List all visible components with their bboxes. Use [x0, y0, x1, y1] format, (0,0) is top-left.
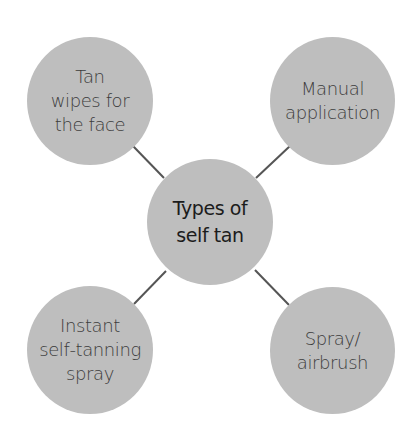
node-label: Spray/ airbrush [297, 327, 368, 375]
node-manual-application: Manual application [270, 37, 395, 165]
connector-top-left [133, 146, 164, 178]
connector-bottom-left [134, 271, 166, 304]
node-spray-airbrush: Spray/ airbrush [270, 287, 395, 414]
node-label: Tan wipes for the face [51, 65, 129, 137]
node-label: Manual application [285, 77, 380, 125]
center-label: Types of self tan [173, 195, 248, 249]
connector-top-right [256, 146, 290, 178]
connector-bottom-right [255, 270, 289, 305]
node-instant-self-tanning-spray: Instant self-tanning spray [27, 286, 153, 414]
node-center-types-of-self-tan: Types of self tan [147, 159, 273, 285]
node-label: Instant self-tanning spray [39, 314, 141, 386]
node-tan-wipes: Tan wipes for the face [27, 37, 153, 165]
